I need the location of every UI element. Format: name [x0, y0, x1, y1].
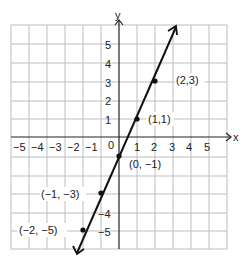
point-2-3 [152, 78, 157, 83]
point-label-0-neg1: (0, −1) [129, 158, 161, 170]
point-neg1-neg3 [98, 190, 103, 195]
y-tick: 2 [105, 95, 111, 107]
y-axis-label: y [115, 9, 121, 21]
y-tick: 3 [105, 77, 111, 89]
point-label-2-3: (2,3) [176, 74, 199, 86]
point-label-1-1: (1,1) [148, 113, 171, 125]
y-tick: 4 [105, 58, 111, 70]
x-tick: 3 [169, 141, 175, 153]
y-tick: −4 [98, 208, 111, 220]
x-tick: −3 [49, 141, 62, 153]
origin-label: 0 [108, 139, 114, 151]
x-tick: −4 [31, 141, 44, 153]
x-tick: 1 [134, 141, 140, 153]
point-label-neg2-neg5: (−2, −5) [19, 224, 58, 236]
line-y-2x-minus-1 [77, 27, 176, 253]
axes [11, 20, 231, 249]
y-tick: −5 [98, 226, 111, 238]
x-tick: −5 [13, 141, 26, 153]
point-neg2-neg5 [80, 227, 85, 232]
line-series [73, 26, 177, 254]
x-tick: 2 [151, 141, 157, 153]
point-0-neg1 [116, 153, 121, 158]
y-tick: 5 [105, 39, 111, 51]
y-tick: 1 [105, 114, 111, 126]
x-axis-label: x [233, 131, 239, 143]
x-tick: 5 [204, 141, 210, 153]
x-tick: 4 [186, 141, 192, 153]
point-label-neg1-neg3: (−1, −3) [41, 188, 80, 200]
x-tick: −2 [67, 141, 80, 153]
x-tick: −1 [85, 141, 98, 153]
coordinate-plane: x y 0 −5 −4 −3 −2 −1 1 2 3 4 5 5 4 3 2 1… [0, 0, 246, 263]
point-1-1 [134, 116, 139, 121]
